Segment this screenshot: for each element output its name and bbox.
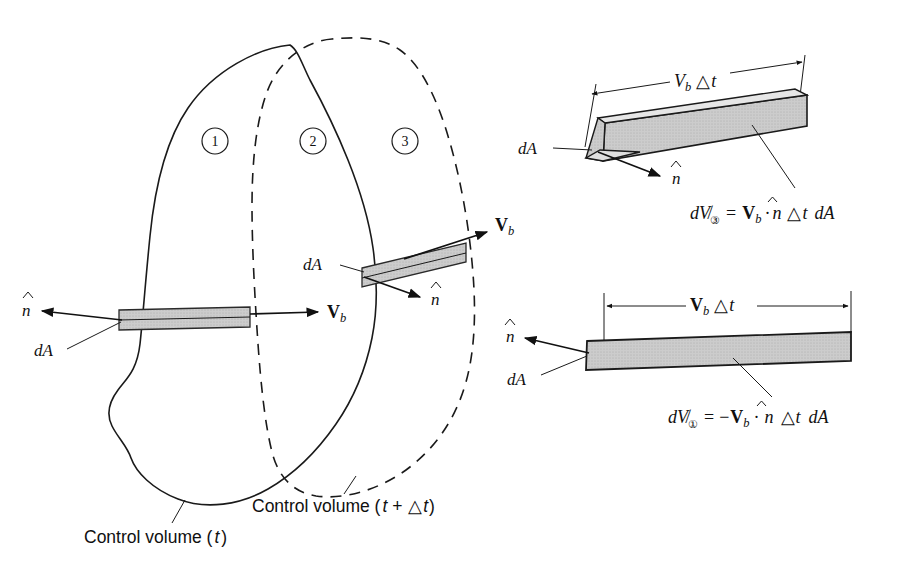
inset-bottom-slab [586, 332, 851, 370]
svg-text:n: n [431, 290, 440, 309]
region-badge-3: 3 [392, 128, 418, 154]
inset-bottom-dA-label: dA [507, 370, 527, 389]
caption-control-volume-t-plus-dt: Control volume (t + △t) [252, 496, 435, 516]
svg-text:n: n [22, 301, 31, 320]
n-hat-left-caret [23, 292, 33, 298]
inset-top-n-hat-label: n [671, 161, 681, 188]
n-hat-left-label: n [22, 292, 33, 320]
control-volume-t-outline [109, 45, 376, 505]
inset-bottom-dA-leader [541, 356, 587, 375]
svg-text:n: n [506, 327, 515, 346]
inset-bottom-n-hat-caret [505, 319, 515, 325]
Vb-left-arrow [250, 312, 318, 314]
Vb-mid-vector: V [495, 215, 508, 235]
region-badge-1: 1 [202, 128, 228, 154]
Vb-left-label: Vb [327, 302, 346, 325]
inset-top-dA-leader [553, 148, 592, 150]
left-slab-group [119, 307, 250, 330]
svg-text:dV̸③=Vb·n△tdA: dV̸③=Vb·n△tdA [690, 203, 835, 226]
svg-text:dV̸①=−Vb·n△tdA: dV̸①=−Vb·n△tdA [668, 407, 830, 430]
region-badge-2: 2 [300, 128, 326, 154]
svg-text:n: n [672, 169, 681, 188]
region-3-label: 3 [402, 134, 409, 149]
Vb-left-vector: V [327, 302, 340, 322]
control-volume-figure: 1 2 3 n dA [0, 0, 901, 570]
svg-text:Vb: Vb [327, 302, 346, 325]
inset-top-group: Vb△t dA n dV̸③=Vb·n△ [518, 55, 835, 226]
Vb-mid-subscript: b [508, 224, 514, 238]
Vb-left-subscript: b [340, 311, 346, 325]
caption-t-leader [172, 500, 185, 523]
dA-left-leader [67, 322, 121, 349]
inset-top-dimension-line-left [592, 82, 670, 94]
inset-top-equation-n-caret [768, 197, 777, 202]
caption-tdt-leader [344, 476, 356, 494]
inset-top-ext-right [800, 55, 805, 96]
inset-bottom-n-hat-arrow [525, 338, 589, 353]
inset-top-equation-leader [752, 125, 795, 188]
inset-top-dimension-line-right [730, 62, 802, 73]
inset-bottom-dimension-label: Vb△t [690, 295, 735, 318]
inset-top-equation: dV̸③=Vb·n△tdA [690, 197, 835, 226]
dA-left-label: dA [34, 341, 54, 360]
region-1-label: 1 [212, 134, 219, 149]
inset-top-dA-label: dA [518, 139, 538, 158]
n-hat-left-arrow [42, 311, 122, 320]
n-hat-mid-label: n [431, 282, 441, 309]
inset-top-n-hat-caret [671, 161, 681, 167]
inset-bottom-equation: dV̸①=−Vb·n△tdA [668, 401, 830, 430]
n-hat-left-text: n [22, 301, 31, 320]
region-2-label: 2 [310, 134, 317, 149]
inset-bottom-group: Vb△t n dA dV̸①=−Vb·n△tdA [505, 291, 851, 430]
figure-canvas: 1 2 3 n dA [0, 0, 901, 570]
inset-top-dimension-label: Vb△t [674, 71, 717, 94]
n-hat-mid-caret [431, 282, 441, 288]
inset-bottom-equation-n-caret [757, 401, 766, 406]
dA-mid-leader [340, 265, 364, 272]
mid-slab-group [362, 243, 466, 287]
Vb-mid-label: Vb [495, 215, 514, 238]
inset-bottom-n-hat-label: n [505, 319, 515, 346]
svg-text:Vb: Vb [495, 215, 514, 238]
caption-control-volume-t: Control volume (t) [84, 527, 227, 547]
dA-mid-label: dA [303, 255, 323, 274]
n-hat-mid-text: n [431, 290, 440, 309]
